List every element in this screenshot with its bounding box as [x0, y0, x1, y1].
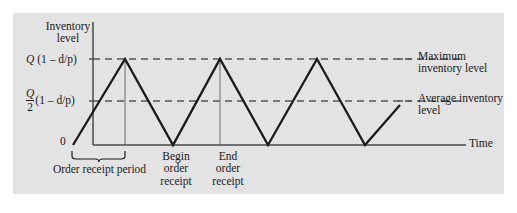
y-tick-label-average-fraction: Q2 — [26, 88, 34, 113]
y-axis-title-line2: level — [57, 32, 79, 44]
y-tick-label-average: Q2(1 – d/p) — [26, 88, 75, 113]
annotation-order-receipt-period: Order receipt period — [52, 163, 147, 175]
origin-label: 0 — [60, 135, 66, 147]
y-axis-title-line1: Inventory — [46, 20, 91, 32]
y-tick-label-maximum: Q (1 – d/p) — [26, 53, 77, 65]
y-tick-label-average-expr: (1 – d/p) — [35, 94, 75, 106]
annotation-begin-order-receipt: Begin order receipt — [152, 150, 200, 187]
y-tick-label-average-numerator: Q — [26, 88, 34, 100]
annotation-average-inventory-level: Average inventory level — [418, 92, 510, 117]
annotation-end-order-receipt: End order receipt — [206, 150, 250, 187]
y-axis-title: Inventorylevel — [32, 20, 104, 45]
figure-container: Inventorylevel Q (1 – d/p) Q2(1 – d/p) 0… — [0, 0, 517, 213]
annotation-maximum-inventory-level: Maximum inventory level — [418, 50, 510, 75]
x-axis-title: Time — [469, 137, 493, 149]
inventory-level-curve — [73, 59, 400, 145]
y-tick-label-maximum-q: Q — [26, 53, 34, 65]
y-tick-label-maximum-expr: (1 – d/p) — [37, 53, 77, 65]
order-receipt-period-brace — [72, 151, 125, 162]
y-tick-label-average-denominator: 2 — [26, 102, 34, 114]
